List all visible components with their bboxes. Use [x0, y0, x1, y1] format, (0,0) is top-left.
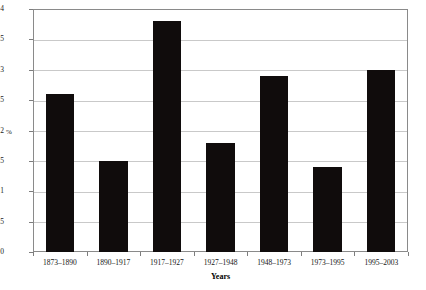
x-axis-tick-label: 1948–1973 [247, 258, 301, 267]
bar-slot [247, 9, 301, 252]
x-axis-tick-mark [140, 252, 141, 256]
y-axis-tick-mark [29, 39, 33, 40]
bar-slot [87, 9, 141, 252]
x-axis-tick-mark [33, 252, 34, 256]
bar-slot [301, 9, 355, 252]
bar [206, 143, 234, 252]
x-axis-title: Years [33, 272, 408, 281]
x-axis-tick-mark [87, 252, 88, 256]
bars-layer [33, 9, 408, 252]
y-axis-title: % [2, 128, 16, 136]
y-axis-tick-mark [29, 70, 33, 71]
x-axis-tick-labels: 1873–18901890–19171917–19271927–19481948… [33, 258, 408, 267]
x-axis-tick-mark [194, 252, 195, 256]
y-axis-tick-mark [29, 161, 33, 162]
bar [367, 70, 395, 252]
x-axis-tick-mark [301, 252, 302, 256]
y-axis-tick-mark [29, 191, 33, 192]
y-axis-tick-mark [29, 222, 33, 223]
bar-slot [140, 9, 194, 252]
bar [260, 76, 288, 252]
bar-slot [33, 9, 87, 252]
y-axis-tick-mark [29, 100, 33, 101]
x-axis-tick-mark [408, 252, 409, 256]
x-axis-tick-label: 1973–1995 [301, 258, 355, 267]
bar [99, 161, 127, 252]
bar-slot [194, 9, 248, 252]
y-axis-tick-label: 0 [0, 248, 4, 256]
y-axis-tick-mark [29, 9, 33, 10]
bar-chart: % 1873–18901890–19171917–19271927–194819… [0, 0, 426, 290]
x-axis-tick-label: 1890–1917 [87, 258, 141, 267]
y-axis-tick-label: 2.5 [0, 96, 4, 104]
y-axis-tick-label: 1.5 [0, 157, 4, 165]
bar [153, 21, 181, 252]
y-axis-tick-label: 1 [0, 187, 4, 195]
y-axis-tick-label: 4 [0, 5, 4, 13]
x-axis-tick-mark [354, 252, 355, 256]
y-axis-tick-label: 3 [0, 66, 4, 74]
y-axis-tick-label: 3.5 [0, 35, 4, 43]
y-axis-tick-mark [29, 131, 33, 132]
x-axis-tick-label: 1927–1948 [194, 258, 248, 267]
x-axis-tick-mark [247, 252, 248, 256]
x-axis-tick-label: 1995–2003 [354, 258, 408, 267]
bar [313, 167, 341, 252]
x-axis-tick-label: 1917–1927 [140, 258, 194, 267]
x-axis-tick-label: 1873–1890 [33, 258, 87, 267]
bar [46, 94, 74, 252]
bar-slot [354, 9, 408, 252]
y-axis-tick-label: 0.5 [0, 218, 4, 226]
y-axis-tick-label: 2 [0, 127, 4, 135]
